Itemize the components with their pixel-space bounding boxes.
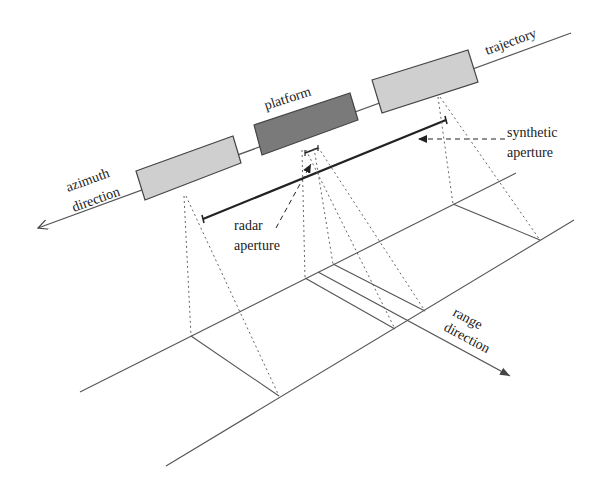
trajectory-label: trajectory <box>483 25 539 57</box>
platform-box-left <box>136 136 241 200</box>
ground-strip-far-edge <box>166 220 574 466</box>
radar-aperture-label-2: aperture <box>234 238 280 253</box>
footprint-left <box>191 336 279 396</box>
platform-box-right <box>372 50 478 113</box>
synthetic-aperture-label-1: synthetic <box>507 125 558 140</box>
footprint-center <box>305 264 425 329</box>
sar-geometry-diagram: trajectory platform synthetic aperture a… <box>0 0 602 498</box>
radar-aperture-label-1: radar <box>234 218 263 233</box>
radar-aperture-bar <box>305 145 318 156</box>
ground-strip-near-edge <box>80 173 516 392</box>
footprint-right <box>453 204 540 240</box>
radar-aperture-pointer <box>276 164 311 228</box>
synthetic-aperture-label-2: aperture <box>507 145 553 160</box>
